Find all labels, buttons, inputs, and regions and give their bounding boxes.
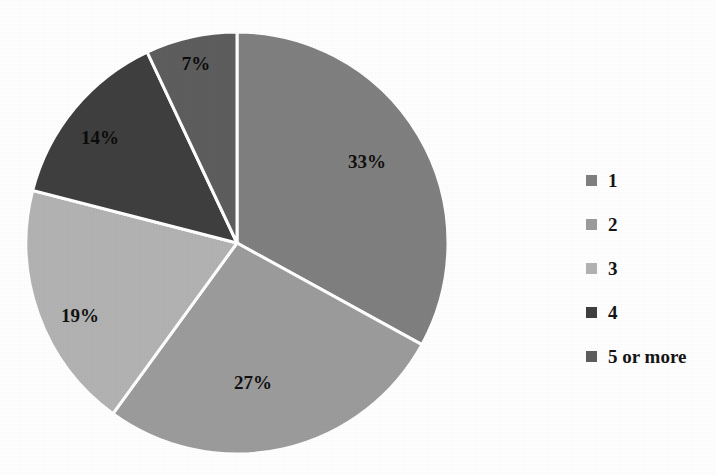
pie-label-3: 19%: [61, 305, 99, 326]
pie-chart-svg: 33% 27% 19% 14% 7%: [0, 0, 480, 475]
legend-swatch-icon-5: [586, 351, 597, 362]
legend-item-5[interactable]: 5 or more: [586, 334, 712, 378]
pie-chart-figure: 33% 27% 19% 14% 7% 1 2 3 4 5 or more: [0, 0, 716, 475]
pie-label-5: 7%: [182, 53, 211, 74]
pie-label-2: 27%: [234, 372, 272, 393]
pie-plot-area: 33% 27% 19% 14% 7%: [0, 0, 480, 475]
legend-item-1[interactable]: 1: [586, 158, 712, 202]
legend-swatch-icon-2: [586, 219, 597, 230]
legend-item-4[interactable]: 4: [586, 290, 712, 334]
chart-legend: 1 2 3 4 5 or more: [586, 158, 712, 378]
legend-label-3: 3: [608, 259, 618, 278]
legend-label-1: 1: [608, 171, 618, 190]
legend-swatch-icon-4: [586, 307, 597, 318]
legend-item-3[interactable]: 3: [586, 246, 712, 290]
pie-label-4: 14%: [81, 127, 119, 148]
legend-item-2[interactable]: 2: [586, 202, 712, 246]
legend-swatch-icon-3: [586, 263, 597, 274]
legend-label-2: 2: [608, 215, 618, 234]
legend-label-5: 5 or more: [608, 347, 686, 366]
pie-label-1: 33%: [348, 151, 386, 172]
legend-swatch-icon-1: [586, 175, 597, 186]
legend-label-4: 4: [608, 303, 618, 322]
